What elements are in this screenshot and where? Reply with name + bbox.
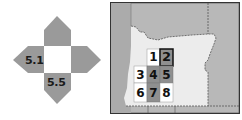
current-page-square	[44, 46, 71, 73]
grid-cell-label-6: 6	[134, 85, 147, 101]
compass-arrows-icon	[0, 0, 115, 120]
south-page-label: 5.5	[47, 76, 66, 89]
north-arrow[interactable]	[44, 16, 71, 46]
adjacent-pages-diagram: 5.1 5.5	[0, 0, 115, 120]
west-page-label: 5.1	[25, 54, 44, 67]
grid-cell-label-2: 2	[160, 49, 173, 65]
grid-cell-label-1: 1	[147, 49, 160, 65]
grid-cell-label-4: 4	[147, 67, 160, 83]
state-outline-map	[110, 2, 240, 114]
grid-cell-label-7: 7	[147, 85, 160, 101]
grid-cell-label-8: 8	[160, 85, 173, 101]
grid-cell-label-3: 3	[134, 67, 147, 83]
east-arrow[interactable]	[71, 46, 101, 73]
grid-cell-label-5: 5	[160, 67, 173, 83]
locator-map: 1 2 3 4 5 6 7 8	[110, 2, 240, 114]
